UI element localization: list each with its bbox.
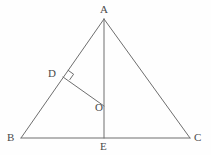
point-label-A: A	[100, 4, 108, 15]
inner-segments	[63, 19, 104, 138]
side-AB	[21, 19, 104, 138]
geometry-canvas	[0, 0, 211, 155]
right-angle-at-D-icon	[68, 70, 74, 80]
geometry-figure: A B C D E O	[0, 0, 211, 155]
side-AC	[104, 19, 190, 138]
triangle-outline	[21, 19, 190, 138]
point-label-B: B	[7, 132, 14, 143]
point-label-E: E	[100, 141, 107, 152]
point-label-C: C	[194, 132, 201, 143]
point-label-D: D	[48, 68, 56, 79]
point-label-O: O	[95, 102, 103, 113]
